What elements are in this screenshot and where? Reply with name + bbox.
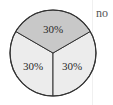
slice-label-bottom-left: 30% — [23, 60, 43, 72]
pie-chart: 30% 30% 30% no — [0, 0, 113, 105]
slice-label-bottom-right: 30% — [62, 60, 82, 72]
slice-label-top: 30% — [43, 23, 63, 35]
side-text: no — [96, 6, 108, 20]
